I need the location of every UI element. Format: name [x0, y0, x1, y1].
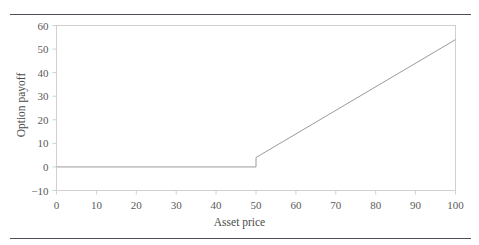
y-axis-title: Option payoff: [15, 73, 27, 138]
y-axis-tick-marks: [53, 26, 57, 191]
x-axis-tick-label: 50: [251, 200, 262, 211]
y-axis-tick-label: 10: [0, 138, 49, 149]
x-axis-tick-label: 30: [171, 200, 182, 211]
y-axis-tick-label: 50: [0, 44, 49, 55]
y-axis-tick-label: −10: [0, 185, 49, 196]
x-axis-tick-label: 20: [131, 200, 142, 211]
x-axis-title: Asset price: [0, 216, 479, 228]
x-axis-tick-marks: [57, 191, 456, 195]
figure-option-payoff-chart: −100102030405060 0102030405060708090100 …: [0, 0, 479, 245]
y-axis-tick-label: 60: [0, 20, 49, 31]
x-axis-tick-label: 10: [91, 200, 102, 211]
x-axis-tick-label: 60: [290, 200, 301, 211]
payoff-line-series: [57, 40, 456, 167]
x-axis-tick-label: 40: [211, 200, 222, 211]
x-axis-tick-label: 80: [370, 200, 381, 211]
x-axis-tick-label: 0: [54, 200, 60, 211]
y-axis-tick-label: 0: [0, 161, 49, 172]
x-axis-tick-label: 70: [330, 200, 341, 211]
plot-area: [0, 0, 479, 245]
x-axis-tick-label: 100: [447, 200, 464, 211]
x-axis-tick-label: 90: [410, 200, 421, 211]
